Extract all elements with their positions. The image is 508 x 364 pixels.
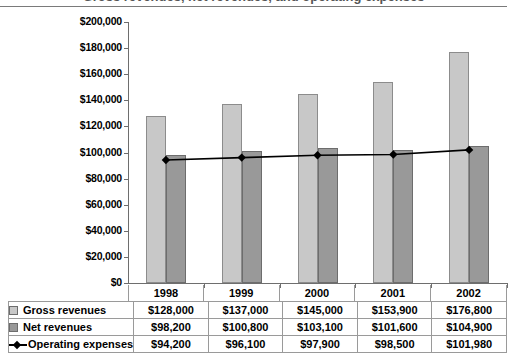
table-value-cell: $96,100: [208, 336, 283, 353]
operating-expenses-marker: 2000 $97,900: [313, 151, 321, 159]
table-value-cell: $145,000: [283, 302, 358, 319]
table-row-label-cell: Net revenues: [9, 319, 134, 336]
table-value-cell: $137,000: [208, 302, 283, 319]
table-row-label: Net revenues: [23, 321, 92, 333]
operating-expenses-marker: 2002 $101,980: [465, 146, 473, 154]
x-axis-year-label: 1998: [128, 285, 204, 301]
x-axis-year-label: 2001: [355, 285, 431, 301]
legend-line-marker-icon: [9, 340, 27, 349]
table-value-cell: $97,900: [283, 336, 358, 353]
table-row-label-cell: Gross revenues: [9, 302, 134, 319]
table-value-cell: $101,980: [432, 336, 507, 353]
table-value-cell: $153,900: [357, 302, 432, 319]
table-value-cell: $104,900: [432, 319, 507, 336]
table-value-cell: $98,200: [134, 319, 209, 336]
table-value-cell: $98,500: [357, 336, 432, 353]
operating-expenses-marker: 1998 $94,200: [162, 156, 170, 164]
table-row-label: Operating expenses: [28, 338, 133, 350]
table-value-cell: $176,800: [432, 302, 507, 319]
x-axis-year-label: 1999: [204, 285, 280, 301]
operating-expenses-marker: 1999 $96,100: [238, 153, 246, 161]
legend-swatch-icon: [9, 306, 18, 315]
x-axis-year-header: 19981999200020012002: [128, 285, 507, 301]
table-row: Net revenues$98,200$100,800$103,100$101,…: [9, 319, 507, 336]
x-axis-year-label: 2002: [431, 285, 507, 301]
operating-expenses-marker: 2001 $98,500: [389, 150, 397, 158]
title-divider: [0, 6, 507, 7]
page-title: Gross revenues, net revenues, and operat…: [0, 0, 507, 4]
table-row-label-cell: Operating expenses: [9, 336, 134, 353]
table-value-cell: $100,800: [208, 319, 283, 336]
table-value-cell: $94,200: [134, 336, 209, 353]
table-value-cell: $128,000: [134, 302, 209, 319]
chart-data-table: Gross revenues$128,000$137,000$145,000$1…: [8, 301, 507, 353]
table-value-cell: $101,600: [357, 319, 432, 336]
table-row: Gross revenues$128,000$137,000$145,000$1…: [9, 302, 507, 319]
x-axis-year-label: 2000: [280, 285, 356, 301]
legend-swatch-icon: [9, 323, 18, 332]
chart-plot-area: $200,000$180,000$160,000$140,000$120,000…: [0, 8, 507, 285]
table-value-cell: $103,100: [283, 319, 358, 336]
table-row: Operating expenses$94,200$96,100$97,900$…: [9, 336, 507, 353]
table-row-label: Gross revenues: [23, 304, 106, 316]
operating-expenses-line-series: 1998 $94,2001999 $96,1002000 $97,9002001…: [0, 8, 507, 285]
